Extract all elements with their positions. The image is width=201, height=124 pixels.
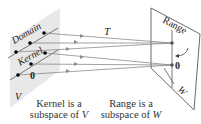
range-point	[170, 41, 174, 45]
kernel-caption: Kernel is a subspace of V	[24, 98, 94, 120]
map-label: T	[104, 25, 111, 37]
arrowheads	[66, 34, 84, 73]
domain-zero-label: 0	[30, 70, 35, 81]
range-zero-label: 0	[175, 60, 180, 71]
range-caption: Range is a subspace of W	[96, 98, 166, 120]
range-zero-point	[170, 63, 174, 67]
